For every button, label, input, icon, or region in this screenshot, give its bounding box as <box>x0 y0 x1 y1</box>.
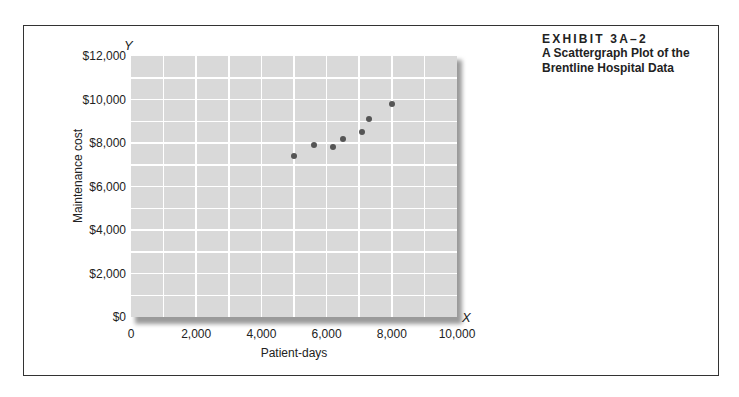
y-tick-label: $2,000 <box>89 267 126 281</box>
exhibit-title: A Scattergraph Plot of the Brentline Hos… <box>542 46 712 76</box>
data-point <box>389 101 395 107</box>
exhibit-number: EXHIBIT 3A–2 <box>542 32 712 46</box>
grid-line-horizontal <box>131 295 457 297</box>
y-tick-label: $0 <box>113 310 126 324</box>
exhibit-caption: EXHIBIT 3A–2 A Scattergraph Plot of the … <box>542 32 712 76</box>
grid-line-horizontal <box>131 229 457 231</box>
data-point <box>340 136 346 142</box>
grid-line-horizontal <box>131 142 457 144</box>
data-point <box>291 153 297 159</box>
y-tick-label: $8,000 <box>89 136 126 150</box>
x-tick-label: 2,000 <box>181 327 211 341</box>
grid-line-horizontal <box>131 273 457 275</box>
y-tick-label: $4,000 <box>89 223 126 237</box>
grid-line-horizontal <box>131 251 457 253</box>
x-tick-label: 0 <box>128 327 135 341</box>
data-point <box>366 116 372 122</box>
data-point <box>359 129 365 135</box>
x-tick-label: 8,000 <box>377 327 407 341</box>
y-axis-label: Maintenance cost <box>71 129 85 223</box>
grid-line-horizontal <box>131 99 457 101</box>
grid-line-horizontal <box>131 77 457 79</box>
y-tick-label: $6,000 <box>89 180 126 194</box>
data-point <box>330 144 336 150</box>
data-point <box>311 142 317 148</box>
y-tick-label: $12,000 <box>83 49 126 63</box>
x-tick-label: 6,000 <box>312 327 342 341</box>
x-axis-letter: X <box>462 310 471 325</box>
x-tick-label: 10,000 <box>439 327 476 341</box>
x-axis-label: Patient-days <box>261 346 328 360</box>
grid-line-horizontal <box>131 208 457 210</box>
y-tick-label: $10,000 <box>83 93 126 107</box>
plot-area <box>131 56 457 317</box>
grid-line-horizontal <box>131 121 457 123</box>
grid-line-horizontal <box>131 186 457 188</box>
x-tick-label: 4,000 <box>246 327 276 341</box>
grid-line-horizontal <box>131 164 457 166</box>
